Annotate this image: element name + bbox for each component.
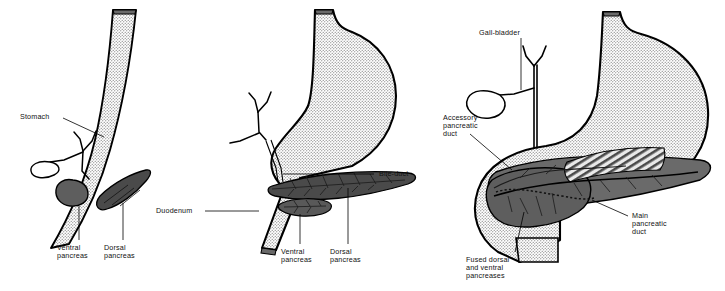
label-dorsal-pancreas-middle-line2: pancreas bbox=[330, 256, 361, 265]
panel-left-graphic bbox=[31, 10, 151, 248]
stomach-opening-right bbox=[603, 12, 620, 16]
label-duodenum: Duodenum bbox=[156, 207, 192, 216]
label-stomach: Stomach bbox=[20, 113, 49, 122]
label-dorsal-pancreas-left-line2: pancreas bbox=[104, 252, 135, 261]
label-accessory-duct-line3: duct bbox=[443, 130, 457, 139]
duodenum-end-right bbox=[516, 238, 558, 262]
pancreas-development-figure: Stomach Ventral pancreas Dorsal pancreas… bbox=[0, 0, 725, 291]
bile-duct-tree-middle bbox=[230, 92, 271, 143]
ventral-pancreas-left bbox=[56, 180, 88, 207]
panel-middle-graphic bbox=[205, 10, 416, 255]
panel-right-graphic bbox=[467, 12, 711, 262]
stomach-shape-middle bbox=[262, 10, 396, 250]
label-ventral-pancreas-middle-line2: pancreas bbox=[281, 256, 312, 265]
gall-bladder-left bbox=[31, 162, 59, 178]
dorsal-pancreas-left bbox=[97, 170, 151, 210]
stomach-opening-middle bbox=[315, 10, 333, 14]
ventral-pancreas-middle bbox=[278, 199, 331, 216]
label-fused-pancreas-line3: pancreases bbox=[466, 272, 505, 281]
label-main-duct-line3: duct bbox=[632, 228, 646, 237]
label-gall-bladder: Gall-bladder bbox=[479, 29, 520, 38]
label-bile-duct: Bile-duct bbox=[379, 170, 408, 179]
bile-duct-tree-right bbox=[500, 46, 546, 148]
label-ventral-pancreas-left-line2: pancreas bbox=[57, 252, 88, 261]
stomach-opening-left bbox=[113, 10, 136, 14]
